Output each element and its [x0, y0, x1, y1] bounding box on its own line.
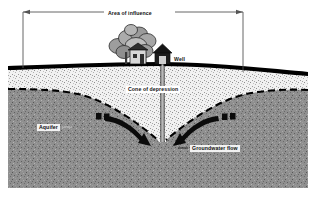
label-area-of-influence: Area of influence [108, 11, 152, 16]
label-aquifer: Aquifer [37, 124, 60, 131]
label-groundwater-flow: Groundwater flow [190, 145, 240, 152]
diagram-svg [0, 0, 316, 197]
diagram-canvas: Area of influence Well Cone of depressio… [0, 0, 316, 197]
dimension-arrow-right-icon [236, 10, 243, 15]
label-well: Well [174, 57, 185, 62]
wellhead-icon [153, 44, 172, 64]
dimension-arrow-left-icon [23, 10, 30, 15]
label-cone-of-depression: Cone of depression [126, 86, 180, 93]
well-casing [161, 60, 164, 142]
